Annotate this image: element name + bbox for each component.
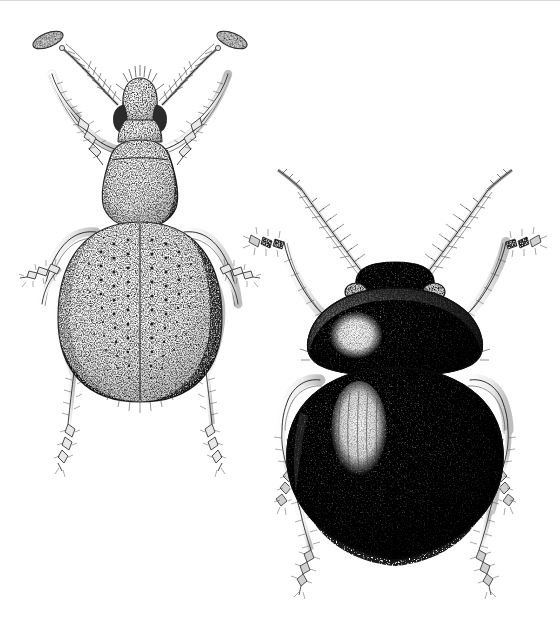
elytra xyxy=(58,222,222,413)
illustration-plate xyxy=(0,0,560,625)
pronotum-2 xyxy=(300,288,490,376)
elytra-2 xyxy=(287,368,503,566)
tarsus xyxy=(476,550,493,595)
beetle-plate-svg xyxy=(0,0,560,625)
tarsus xyxy=(297,550,314,595)
specimen-left-weevil xyxy=(19,28,261,477)
antenna-right xyxy=(159,28,249,105)
foreleg-left xyxy=(50,74,122,165)
tarsus xyxy=(205,424,222,471)
specimen-right-beetle xyxy=(243,169,547,599)
foreleg-right xyxy=(158,74,230,165)
tarsus xyxy=(58,424,75,471)
foreleg-right-2 xyxy=(456,227,547,324)
antenna-left xyxy=(31,28,121,105)
elytral-highlight xyxy=(331,381,387,479)
head xyxy=(118,120,162,142)
pronotum xyxy=(102,140,177,228)
